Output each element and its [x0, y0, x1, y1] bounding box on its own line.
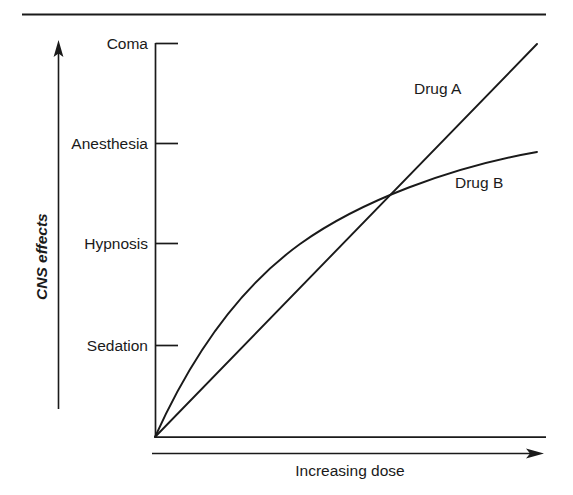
series-label-drug-a: Drug A: [414, 81, 461, 97]
y-axis-title: CNS effects: [34, 213, 50, 300]
x-axis-title: Increasing dose: [155, 463, 545, 479]
y-axis-direction-arrow: [54, 40, 64, 409]
series-line-drug-a: [155, 44, 537, 437]
figure-container: Coma Anesthesia Hypnosis Sedation CNS ef…: [0, 0, 573, 495]
y-axis-ticks: [156, 44, 179, 346]
series-line-drug-b: [155, 152, 537, 437]
y-tick-label-sedation: Sedation: [0, 338, 148, 354]
y-tick-label-coma: Coma: [0, 36, 148, 52]
series-label-drug-b: Drug B: [455, 175, 503, 191]
x-axis-direction-arrow: [152, 448, 544, 458]
y-tick-label-hypnosis: Hypnosis: [0, 236, 148, 252]
y-tick-label-anesthesia: Anesthesia: [0, 136, 148, 152]
